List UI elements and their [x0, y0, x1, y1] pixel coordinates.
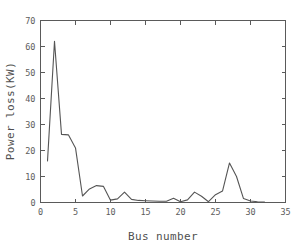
x-axis-title: Bus number [128, 230, 198, 243]
y-axis-tick-labels: 010203040506070 [25, 16, 35, 208]
x-tick-label: 10 [105, 207, 115, 217]
x-tick-label: 25 [210, 207, 220, 217]
y-axis-ticks [41, 21, 286, 203]
y-tick-label: 0 [30, 198, 35, 208]
figure-container: 010203040506070 05101520253035 Bus numbe… [0, 0, 307, 248]
plot-frame [41, 21, 286, 203]
y-tick-label: 50 [25, 68, 35, 78]
x-tick-label: 20 [175, 207, 185, 217]
x-tick-label: 35 [280, 207, 290, 217]
x-tick-label: 0 [38, 207, 43, 217]
x-tick-label: 5 [73, 207, 78, 217]
line-chart: 010203040506070 05101520253035 Bus numbe… [0, 0, 307, 248]
y-tick-label: 60 [25, 42, 35, 52]
y-tick-label: 20 [25, 146, 35, 156]
x-axis-ticks [41, 21, 286, 203]
y-tick-label: 10 [25, 172, 35, 182]
y-tick-label: 30 [25, 120, 35, 130]
y-axis-title: Power loss(KW) [4, 62, 17, 160]
x-axis-tick-labels: 05101520253035 [38, 207, 291, 217]
x-tick-label: 15 [140, 207, 150, 217]
y-tick-label: 70 [25, 16, 35, 26]
data-series-line [48, 41, 265, 202]
x-tick-label: 30 [245, 207, 255, 217]
y-tick-label: 40 [25, 94, 35, 104]
